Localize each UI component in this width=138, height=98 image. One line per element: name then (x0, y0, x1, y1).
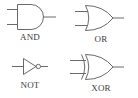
not-gate-icon (12, 59, 48, 75)
not-body (24, 59, 37, 75)
xor-label: XOR (91, 83, 111, 93)
xor-body (86, 55, 114, 80)
or-gate-icon (75, 6, 124, 31)
and-body (18, 5, 44, 30)
xor-extra-curve (82, 55, 85, 80)
or-body (86, 6, 114, 31)
not-label: NOT (20, 80, 39, 90)
xor-gate-icon (70, 55, 124, 80)
and-label: AND (20, 32, 40, 42)
or-label: OR (95, 34, 108, 44)
and-gate-icon (7, 5, 56, 30)
